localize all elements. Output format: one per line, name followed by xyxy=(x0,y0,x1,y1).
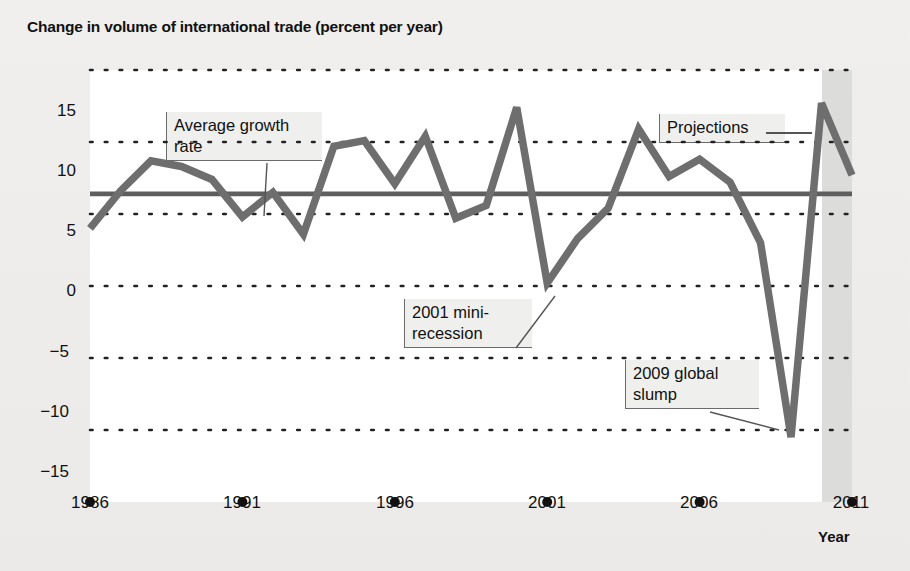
annotation-projections: Projections xyxy=(659,114,785,143)
annotation-2001-mini-recession: 2001 mini- recession xyxy=(404,299,532,348)
projection-band xyxy=(822,70,852,502)
y-tick-label-neg15: −15 xyxy=(23,462,69,482)
annotation-average-growth-rate: Average growth rate xyxy=(166,112,322,161)
x-tick-label-1986: 1986 xyxy=(55,493,125,513)
page-title: Change in volume of international trade … xyxy=(27,18,443,36)
y-tick-label-10: 10 xyxy=(30,161,76,181)
y-tick-label-neg10: −10 xyxy=(23,402,69,422)
x-axis-title: Year xyxy=(818,528,850,545)
y-tick-label-neg5: −5 xyxy=(23,342,69,362)
figure-container: Change in volume of international trade … xyxy=(0,0,910,571)
annotation-2009-global-slump: 2009 global slump xyxy=(625,360,759,409)
y-tick-label-15: 15 xyxy=(30,101,76,121)
x-tick-label-2011: 2011 xyxy=(816,493,886,513)
x-tick-label-2006: 2006 xyxy=(664,493,734,513)
x-tick-label-2001: 2001 xyxy=(512,493,582,513)
y-tick-label-5: 5 xyxy=(30,221,76,241)
y-tick-label-0: 0 xyxy=(30,281,76,301)
x-tick-label-1996: 1996 xyxy=(360,493,430,513)
x-tick-label-1991: 1991 xyxy=(207,493,277,513)
